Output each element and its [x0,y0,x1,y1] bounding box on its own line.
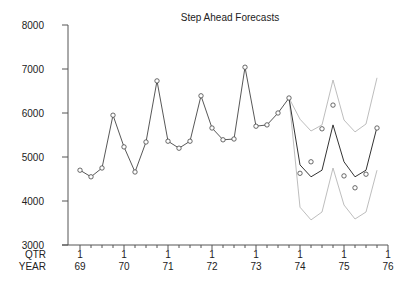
y-tick-label: 4000 [22,196,45,207]
x-tick-label-year: 71 [162,261,174,272]
observed-line [80,67,289,177]
observed-point [232,137,236,141]
observed-point [353,186,357,190]
observed-point [78,168,82,172]
observed-point [122,145,126,149]
observed-point [133,170,137,174]
x-tick-label-year: 70 [118,261,130,272]
observed-point [155,79,159,83]
forecast-line [289,98,377,177]
x-row-label-qtr: QTR [25,249,46,260]
observed-point [89,175,93,179]
observed-point [166,139,170,143]
observed-point [298,171,302,175]
x-tick-label-qtr: 1 [77,249,83,260]
observed-point [320,127,324,131]
x-tick-label-qtr: 1 [385,249,391,260]
observed-point [100,166,104,170]
y-tick-label: 6000 [22,108,45,119]
y-tick-label: 7000 [22,64,45,75]
observed-point [199,94,203,98]
x-tick-label-qtr: 1 [209,249,215,260]
x-tick-label-qtr: 1 [121,249,127,260]
x-tick-label-qtr: 1 [165,249,171,260]
y-axis: 300040005000600070008000 [22,20,68,251]
x-tick-label-year: 69 [74,261,86,272]
observed-point [144,140,148,144]
observed-point [188,139,192,143]
x-tick-label-qtr: 1 [341,249,347,260]
x-tick-label-year: 73 [250,261,262,272]
observed-point [111,113,115,117]
x-axis: QTR YEAR 169170171172173174175176 [19,245,394,272]
observed-point [287,96,291,100]
y-tick-label: 5000 [22,152,45,163]
y-tick-label: 8000 [22,20,45,31]
observed-point [254,124,258,128]
observed-point [331,103,335,107]
observed-point [265,123,269,127]
x-tick-label-qtr: 1 [253,249,259,260]
chart: Step Ahead Forecasts 3000400050006000700… [0,0,414,291]
observed-point [177,146,181,150]
chart-title: Step Ahead Forecasts [181,12,279,23]
x-tick-label-year: 75 [338,261,350,272]
observed-point [364,172,368,176]
x-tick-label-year: 74 [294,261,306,272]
x-tick-label-year: 72 [206,261,218,272]
x-tick-label-qtr: 1 [297,249,303,260]
observed-point [243,65,247,69]
observed-point [221,138,225,142]
observed-point [375,126,379,130]
observed-point [342,174,346,178]
lower-bound-line [289,98,377,220]
x-row-label-year: YEAR [19,261,46,272]
forecast-bands [289,78,377,220]
x-tick-label-year: 76 [382,261,394,272]
observed-point [210,126,214,130]
observed-point [276,111,280,115]
observed-point [309,160,313,164]
